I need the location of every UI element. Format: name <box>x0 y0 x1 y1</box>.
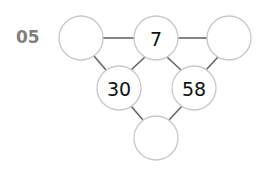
edge-top-right-middle-right <box>206 57 218 70</box>
number-triangle-diagram: 7 30 58 <box>0 0 268 173</box>
node-bottom[interactable] <box>134 116 178 160</box>
edge-top-middle-middle-left <box>131 57 145 70</box>
node-middle-left-value: 30 <box>107 78 131 100</box>
edge-middle-left-bottom <box>131 106 143 120</box>
node-top-middle-value: 7 <box>150 28 162 50</box>
edge-top-left-middle-left <box>94 56 106 70</box>
node-middle-right-value: 58 <box>182 78 206 100</box>
edge-top-middle-middle-right <box>167 57 181 70</box>
node-top-right[interactable] <box>207 16 251 60</box>
node-top-left[interactable] <box>59 16 103 60</box>
edge-middle-right-bottom <box>169 106 182 120</box>
